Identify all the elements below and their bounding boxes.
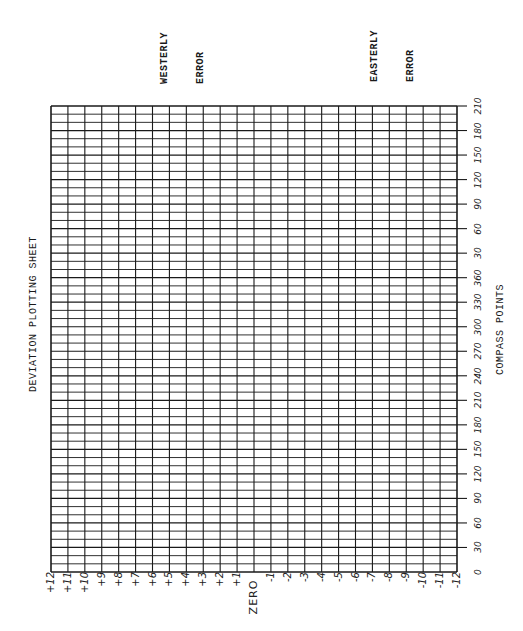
zero-label: ZERO — [248, 577, 260, 617]
deviation-tick-label: -9 — [400, 572, 412, 600]
compass-tick-label: 60 — [472, 218, 484, 240]
deviation-tick-label: +3 — [197, 572, 209, 600]
compass-tick-label: 300 — [472, 316, 484, 338]
deviation-tick-label: -12 — [451, 572, 463, 600]
compass-tick-label: 210 — [472, 95, 484, 117]
deviation-tick-label: -3 — [299, 572, 311, 600]
deviation-tick-label: +4 — [180, 572, 192, 600]
deviation-tick-label: -10 — [417, 572, 429, 600]
compass-tick-label: 180 — [472, 120, 484, 142]
deviation-tick-label: -2 — [282, 572, 294, 600]
compass-tick-label: 60 — [472, 512, 484, 534]
compass-tick-label: 330 — [472, 291, 484, 313]
deviation-tick-label: +8 — [113, 572, 125, 600]
compass-tick-label: 150 — [472, 144, 484, 166]
deviation-tick-label: -11 — [434, 572, 446, 600]
compass-tick-label: 0 — [472, 561, 484, 583]
deviation-tick-label: +1 — [231, 572, 243, 600]
compass-tick-label: 180 — [472, 414, 484, 436]
compass-tick-label: 120 — [472, 463, 484, 485]
deviation-tick-label: -6 — [350, 572, 362, 600]
compass-tick-label: 120 — [472, 169, 484, 191]
compass-tick-label: 30 — [472, 242, 484, 264]
deviation-tick-label: +11 — [62, 572, 74, 600]
compass-tick-label: 150 — [472, 438, 484, 460]
compass-tick-label: 90 — [472, 193, 484, 215]
deviation-tick-label: +12 — [45, 572, 57, 600]
deviation-tick-label: +2 — [214, 572, 226, 600]
compass-tick-label: 240 — [472, 365, 484, 387]
deviation-tick-label: -8 — [383, 572, 395, 600]
compass-tick-label: 30 — [472, 536, 484, 558]
deviation-tick-label: +10 — [79, 572, 91, 600]
compass-tick-label: 210 — [472, 389, 484, 411]
plotting-grid[interactable] — [0, 0, 523, 631]
deviation-tick-label: +5 — [163, 572, 175, 600]
deviation-tick-label: +7 — [130, 572, 142, 600]
deviation-tick-label: +9 — [96, 572, 108, 600]
compass-tick-label: 270 — [472, 340, 484, 362]
deviation-tick-label: +6 — [147, 572, 159, 600]
deviation-tick-label: -1 — [265, 572, 277, 600]
compass-tick-label: 360 — [472, 267, 484, 289]
deviation-tick-label: -7 — [366, 572, 378, 600]
deviation-tick-label: -4 — [316, 572, 328, 600]
deviation-tick-label: -5 — [333, 572, 345, 600]
compass-tick-label: 90 — [472, 487, 484, 509]
